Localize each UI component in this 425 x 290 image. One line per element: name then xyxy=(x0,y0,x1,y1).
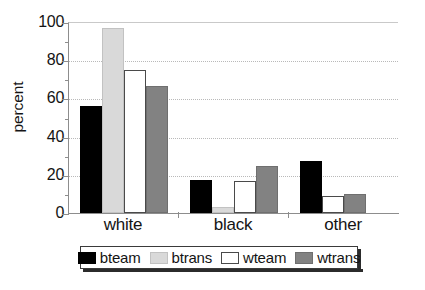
x-tick-2 xyxy=(288,212,289,218)
bar-other-wtrans xyxy=(344,194,366,213)
y-tick-label-60: 60 xyxy=(47,90,64,106)
bar-white-btrans xyxy=(102,28,124,213)
x-axis-tick-labels: whiteblackother xyxy=(68,216,398,240)
bar-group-black xyxy=(190,23,278,213)
y-tick-label-0: 0 xyxy=(55,205,64,221)
y-tick-major-100 xyxy=(62,23,69,24)
bar-other-wteam xyxy=(322,196,344,213)
x-tick-label-black: black xyxy=(214,216,253,233)
bar-black-wtrans xyxy=(256,166,278,213)
y-axis-tick-labels: 020406080100 xyxy=(26,22,64,213)
black-swatch xyxy=(78,252,96,264)
y-tick-major-40 xyxy=(62,138,69,139)
legend-item-bteam: bteam xyxy=(78,250,141,265)
y-tick-major-0 xyxy=(62,214,69,215)
x-tick-label-other: other xyxy=(324,216,362,233)
bar-group-white xyxy=(80,23,168,213)
y-tick-label-100: 100 xyxy=(38,14,64,30)
y-tick-major-60 xyxy=(62,99,69,100)
y-tick-label-40: 40 xyxy=(47,129,64,145)
y-tick-label-20: 20 xyxy=(47,167,64,183)
bar-black-wteam xyxy=(234,181,256,213)
x-tick-1 xyxy=(178,212,179,218)
bar-white-wteam xyxy=(124,70,146,213)
white-swatch xyxy=(221,252,239,264)
bar-white-bteam xyxy=(80,106,102,213)
legend-label-btrans: btrans xyxy=(172,250,213,265)
x-tick-label-white: white xyxy=(104,216,143,233)
legend-item-wtrans: wtrans xyxy=(295,250,360,265)
legend-item-wteam: wteam xyxy=(221,250,286,265)
y-tick-minor-10 xyxy=(65,195,70,196)
legend-label-wtrans: wtrans xyxy=(317,250,360,265)
y-tick-minor-70 xyxy=(65,80,70,81)
y-tick-minor-50 xyxy=(65,119,70,120)
y-tick-minor-30 xyxy=(65,157,70,158)
legend-item-btrans: btrans xyxy=(150,250,213,265)
y-tick-minor-90 xyxy=(65,42,70,43)
bar-chart-figure: percent 020406080100 whiteblackother bte… xyxy=(0,0,425,290)
y-tick-major-80 xyxy=(62,61,69,62)
bar-other-bteam xyxy=(300,161,322,213)
bar-white-wtrans xyxy=(146,86,168,213)
legend-label-wteam: wteam xyxy=(243,250,286,265)
y-axis-title-text: percent xyxy=(8,81,26,132)
chart-legend: bteambtranswteamwtrans xyxy=(80,246,358,269)
light-gray-swatch xyxy=(150,252,168,264)
medium-gray-swatch xyxy=(295,252,313,264)
bar-group-other xyxy=(300,23,388,213)
x-axis-line xyxy=(68,213,399,214)
legend-label-bteam: bteam xyxy=(100,250,141,265)
figure-caption-cropped xyxy=(58,285,378,290)
legend-shadow-bottom xyxy=(83,269,363,272)
y-tick-major-20 xyxy=(62,176,69,177)
plot-area xyxy=(68,22,398,213)
y-tick-label-80: 80 xyxy=(47,52,64,68)
bar-black-bteam xyxy=(190,180,212,213)
